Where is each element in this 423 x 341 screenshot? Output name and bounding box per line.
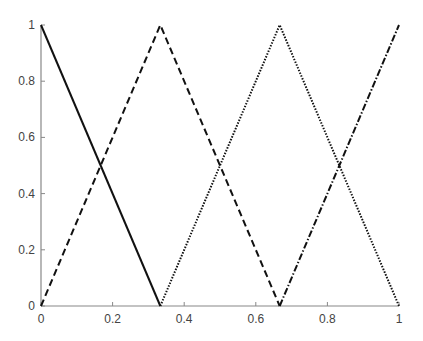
x-tick-label: 0.2 [104, 312, 121, 326]
y-tick-label: 0.6 [18, 130, 35, 144]
x-tick-label: 0.4 [176, 312, 193, 326]
x-tick-label: 0 [38, 312, 45, 326]
y-tick-label: 0.8 [18, 74, 35, 88]
chart: 00.20.40.60.8100.20.40.60.81 [0, 0, 423, 341]
y-tick-label: 0 [28, 299, 35, 313]
series-mf3-line [160, 25, 399, 306]
x-tick-label: 1 [396, 312, 403, 326]
x-tick-label: 0.6 [247, 312, 264, 326]
y-tick-label: 0.2 [18, 243, 35, 257]
y-tick-label: 1 [28, 18, 35, 32]
series-lines [41, 25, 399, 306]
y-tick-label: 0.4 [18, 187, 35, 201]
series-mf2-line [41, 25, 280, 306]
tick-labels: 00.20.40.60.8100.20.40.60.81 [18, 18, 402, 326]
x-tick-label: 0.8 [319, 312, 336, 326]
